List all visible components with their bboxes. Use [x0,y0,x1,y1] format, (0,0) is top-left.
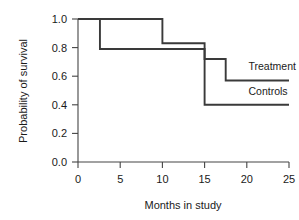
x-tick-label: 5 [117,173,123,185]
x-tick-label: 25 [283,173,295,185]
y-tick-label: 0.4 [52,99,67,111]
survival-curve-figure: 0510152025 0.00.20.40.60.81.0 TreatmentC… [0,0,299,220]
series-label-controls: Controls [248,85,287,97]
x-tick-label: 10 [156,173,168,185]
kaplan-meier-plot: 0510152025 0.00.20.40.60.81.0 TreatmentC… [0,0,299,220]
y-tick-labels: 0.00.20.40.60.81.0 [52,13,67,168]
y-tick-label: 0.6 [52,70,67,82]
y-tick-label: 0.8 [52,42,67,54]
x-tick-label: 0 [75,173,81,185]
x-axis-title: Months in study [144,199,222,211]
y-axis-title: Probability of survival [17,39,29,143]
x-tick-labels: 0510152025 [75,173,295,185]
series-label-treatment: Treatment [248,60,296,72]
y-tick-label: 0.2 [52,127,67,139]
y-tick-label: 0.0 [52,156,67,168]
x-tick-label: 20 [241,173,253,185]
series-inline-labels: TreatmentControls [248,60,296,96]
y-tick-label: 1.0 [52,13,67,25]
x-tick-label: 15 [198,173,210,185]
